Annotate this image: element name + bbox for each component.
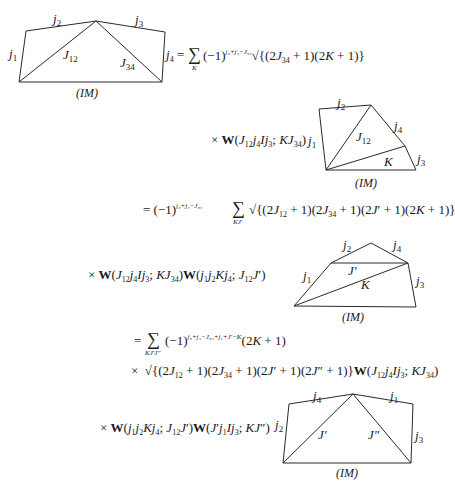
label-IM: (IM) (336, 466, 358, 481)
label-j3: j3 (415, 429, 423, 445)
label-Jprime: J′ (318, 428, 327, 441)
label-j4: j4 (313, 389, 321, 405)
equation-line-7: × W(j1j2Kj4; J12J′)W(J′j1Ij3; KJ″) (100, 421, 270, 437)
label-j1: j1 (390, 389, 398, 405)
label-Jdoubleprime: J″ (368, 428, 379, 441)
label-j2: j2 (275, 418, 283, 434)
